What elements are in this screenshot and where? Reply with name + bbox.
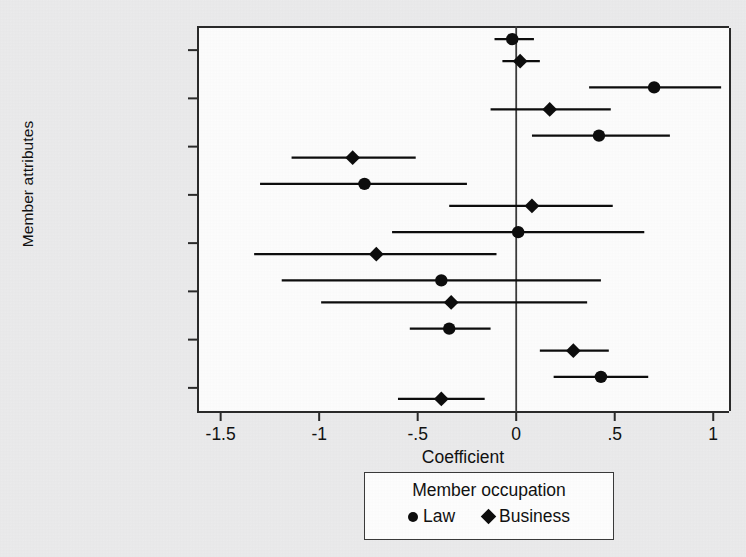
data-point-diamond (434, 391, 449, 406)
data-point-circle (435, 274, 447, 286)
series-markers-group (254, 33, 721, 406)
x-axis-title: Coefficient (197, 447, 729, 468)
x-tick-label: -.5 (407, 424, 427, 445)
data-point-circle (512, 226, 524, 238)
data-point-diamond (369, 247, 384, 262)
data-point-circle (506, 33, 518, 45)
x-tick-label: 1 (708, 424, 718, 445)
data-point-circle (648, 81, 660, 93)
legend-entry-law: Law (408, 506, 455, 527)
data-point-circle (593, 129, 605, 141)
legend-label-business: Business (499, 506, 570, 527)
data-point-diamond (542, 102, 557, 117)
x-tick-label: 0 (511, 424, 521, 445)
legend: Member occupation Law Business (364, 472, 614, 540)
x-tick-label: -1 (311, 424, 327, 445)
data-point-diamond (345, 150, 360, 165)
x-tick-label: -1.5 (206, 424, 236, 445)
diamond-marker-icon (481, 509, 497, 525)
legend-title: Member occupation (365, 480, 613, 501)
data-point-circle (443, 322, 455, 334)
legend-entry-business: Business (483, 506, 570, 527)
x-tick-label: .5 (607, 424, 622, 445)
data-point-circle (358, 178, 370, 190)
y-axis-title: Member attributes (19, 34, 37, 334)
circle-marker-icon (408, 512, 418, 522)
data-point-diamond (513, 54, 528, 69)
data-point-circle (595, 371, 607, 383)
x-axis-ticks (221, 412, 714, 421)
legend-label-law: Law (423, 506, 455, 527)
data-point-diamond (444, 295, 459, 310)
coefficient-plot-figure: UrbanSouthernDemocratWomanBlackLatinoAge… (0, 0, 746, 557)
data-point-diamond (525, 198, 540, 213)
data-point-diamond (566, 343, 581, 358)
legend-entries: Law Business (365, 506, 613, 527)
